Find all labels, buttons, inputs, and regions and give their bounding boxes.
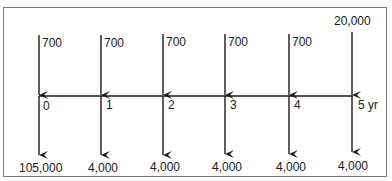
period-label-1: 1 [106, 98, 113, 112]
outflow-label-4: 4,000 [276, 160, 306, 174]
inflow-label-2: 700 [166, 35, 186, 49]
inflow-label-0: 700 [42, 36, 62, 50]
inflow-label-3: 700 [228, 35, 248, 49]
period-label-2: 2 [168, 98, 175, 112]
outflow-label-3: 4,000 [212, 160, 242, 174]
inflow-label-4: 700 [292, 35, 312, 49]
period-label-0: 0 [43, 99, 50, 113]
outflow-label-5: 4,000 [338, 159, 368, 173]
outflow-label-1: 4,000 [88, 161, 118, 175]
outflow-label-0: 105,000 [19, 161, 62, 175]
inflow-label-5: 20,000 [334, 14, 371, 28]
outflow-arrows [39, 96, 352, 155]
period-label-5: 5 yr [358, 98, 378, 112]
inflow-label-1: 700 [104, 36, 124, 50]
period-label-3: 3 [230, 98, 237, 112]
period-label-4: 4 [294, 98, 301, 112]
outflow-label-2: 4,000 [150, 160, 180, 174]
